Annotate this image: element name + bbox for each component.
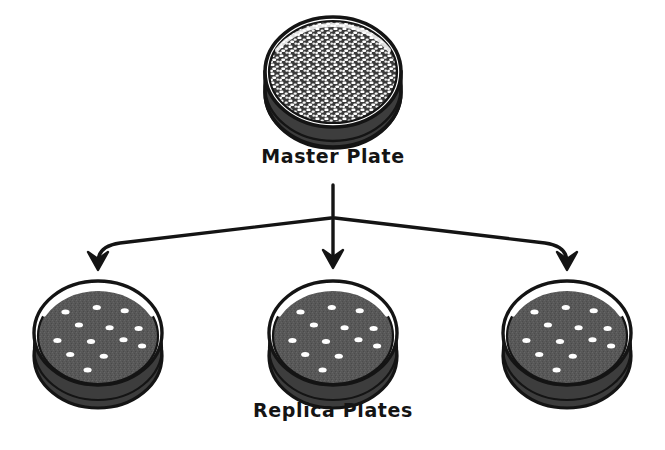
colony-dot: [354, 337, 362, 342]
colony-dot: [288, 338, 296, 343]
colony-dot: [562, 305, 570, 310]
colony-dot: [522, 338, 530, 343]
colony-dot: [106, 325, 114, 330]
colony-dot: [61, 310, 69, 315]
colony-dot: [319, 368, 327, 373]
replica-plate-center: [269, 281, 397, 408]
master-plate-label: Master Plate: [261, 145, 404, 167]
colony-dot: [84, 368, 92, 373]
colony-dot: [328, 305, 336, 310]
colony-dot: [296, 310, 304, 315]
colony-dot: [341, 325, 349, 330]
colony-dot: [556, 339, 564, 344]
colony-dot: [604, 326, 612, 331]
replica-plates-label: Replica Plates: [253, 399, 413, 421]
colony-dot: [535, 352, 543, 357]
colony-dot: [135, 326, 143, 331]
colony-dot: [588, 337, 596, 342]
colony-dot: [100, 354, 108, 359]
colony-dot: [590, 308, 598, 313]
colony-dot: [66, 352, 74, 357]
colony-dot: [138, 344, 146, 349]
colony-dot: [575, 325, 583, 330]
replica-plating-diagram: Master Plate: [0, 0, 665, 450]
colony-dot: [310, 323, 318, 328]
colony-dot: [53, 338, 61, 343]
master-plate: [265, 17, 401, 148]
colony-dot: [301, 352, 309, 357]
colony-dot: [119, 337, 127, 342]
colony-dot: [356, 308, 364, 313]
colony-dot: [530, 310, 538, 315]
colony-dot: [607, 344, 615, 349]
colony-dot: [373, 344, 381, 349]
colony-dot: [93, 305, 101, 310]
colony-dot: [569, 354, 577, 359]
colony-dot: [544, 323, 552, 328]
diagram-canvas: Master Plate: [0, 0, 665, 450]
colony-dot: [87, 339, 95, 344]
colony-dot: [553, 368, 561, 373]
colony-dot: [370, 326, 378, 331]
replica-plate-right: [503, 281, 631, 408]
replica-plate-left: [34, 281, 162, 408]
colony-dot: [121, 308, 129, 313]
colony-dot: [322, 339, 330, 344]
colony-dot: [335, 354, 343, 359]
colony-dot: [75, 323, 83, 328]
